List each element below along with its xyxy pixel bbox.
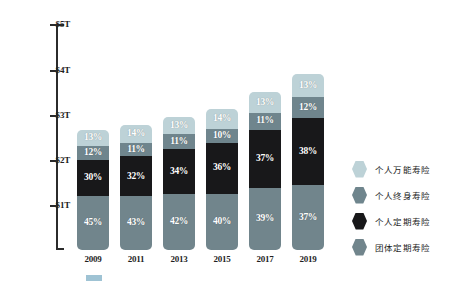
bar-2013[interactable]: 13%11%34%42%: [163, 117, 195, 250]
bar-2017[interactable]: 13%11%37%39%: [249, 92, 281, 250]
x-axis-label-2009: 2009: [77, 254, 109, 264]
y-tick-label-2: $2T: [30, 155, 70, 165]
y-tick-label-1: $1T: [30, 200, 70, 210]
bar-segment-2013-3: 42%: [163, 194, 195, 250]
bar-2011[interactable]: 14%11%32%43%: [120, 125, 152, 250]
segment-value-label: 45%: [84, 218, 102, 228]
bar-segment-2015-0: 14%: [206, 109, 238, 129]
legend-label-1: 个人终身寿险: [375, 189, 430, 201]
bar-segment-2019-0: 13%: [292, 74, 324, 97]
legend-hexagon-icon-2: [352, 213, 367, 230]
y-tick-label-3: $3T: [30, 110, 70, 120]
plot-area: 13%12%30%45%200914%11%32%43%201113%11%34…: [72, 20, 334, 250]
bar-2019[interactable]: 13%12%38%37%: [292, 74, 324, 250]
segment-value-label: 37%: [256, 154, 274, 164]
bar-group-2019[interactable]: 13%12%38%37%: [292, 74, 324, 250]
legend-item-0[interactable]: 个人万能寿险: [352, 158, 456, 180]
x-axis-label-2013: 2013: [163, 254, 195, 264]
bar-segment-2019-1: 12%: [292, 97, 324, 118]
legend-item-2[interactable]: 个人定期寿险: [352, 210, 456, 232]
bar-segment-2017-1: 11%: [249, 113, 281, 130]
segment-value-label: 38%: [299, 147, 317, 157]
bar-group-2009[interactable]: 13%12%30%45%: [77, 130, 109, 250]
caption-marker-icon: [86, 275, 102, 281]
segment-value-label: 42%: [170, 217, 188, 227]
bar-segment-2013-0: 13%: [163, 117, 195, 134]
bar-segment-2013-2: 34%: [163, 149, 195, 194]
bar-segment-2011-3: 43%: [120, 196, 152, 250]
segment-value-label: 36%: [213, 163, 231, 173]
segment-value-label: 13%: [84, 133, 102, 143]
bar-segment-2015-2: 36%: [206, 143, 238, 194]
x-axis-label-2011: 2011: [120, 254, 152, 264]
segment-value-label: 32%: [127, 172, 145, 182]
y-axis-bottom-cap: [56, 248, 64, 250]
bar-segment-2017-3: 39%: [249, 188, 281, 250]
segment-value-label: 14%: [127, 129, 145, 139]
legend-hexagon-icon-3: [352, 239, 367, 256]
bar-segment-2009-2: 30%: [77, 160, 109, 196]
bar-segment-2009-3: 45%: [77, 196, 109, 250]
legend-item-1[interactable]: 个人终身寿险: [352, 184, 456, 206]
segment-value-label: 39%: [256, 214, 274, 224]
legend-label-0: 个人万能寿险: [375, 163, 430, 175]
cropped-caption: [86, 274, 276, 281]
segment-value-label: 34%: [170, 167, 188, 177]
y-tick-label-4: $4T: [30, 65, 70, 75]
segment-value-label: 11%: [127, 145, 145, 155]
legend-hexagon-icon-1: [352, 187, 367, 204]
x-axis-label-2017: 2017: [249, 254, 281, 264]
bar-segment-2017-2: 37%: [249, 130, 281, 188]
bar-segment-2019-3: 37%: [292, 185, 324, 250]
segment-value-label: 12%: [84, 148, 102, 158]
segment-value-label: 14%: [213, 114, 231, 124]
segment-value-label: 11%: [256, 116, 274, 126]
bar-segment-2015-1: 10%: [206, 129, 238, 143]
bar-segment-2013-1: 11%: [163, 134, 195, 149]
bar-2015[interactable]: 14%10%36%40%: [206, 109, 238, 250]
legend-item-3[interactable]: 团体定期寿险: [352, 236, 456, 258]
bar-group-2017[interactable]: 13%11%37%39%: [249, 92, 281, 250]
legend-label-2: 个人定期寿险: [375, 215, 430, 227]
bar-segment-2011-2: 32%: [120, 156, 152, 196]
segment-value-label: 37%: [299, 213, 317, 223]
x-axis-label-2015: 2015: [206, 254, 238, 264]
chart-legend: 个人万能寿险 个人终身寿险 个人定期寿险 团体定期寿险: [352, 158, 456, 262]
segment-value-label: 13%: [170, 121, 188, 131]
bar-segment-2019-2: 38%: [292, 118, 324, 185]
bar-segment-2015-3: 40%: [206, 194, 238, 250]
bar-segment-2009-0: 13%: [77, 130, 109, 146]
y-tick-label-5: $5T: [30, 19, 70, 29]
segment-value-label: 40%: [213, 217, 231, 227]
segment-value-label: 13%: [299, 81, 317, 91]
bar-group-2015[interactable]: 14%10%36%40%: [206, 109, 238, 250]
segment-value-label: 43%: [127, 218, 145, 228]
y-axis-line: [56, 24, 58, 250]
segment-value-label: 12%: [299, 103, 317, 113]
segment-value-label: 11%: [170, 137, 188, 147]
bar-2009[interactable]: 13%12%30%45%: [77, 130, 109, 250]
bar-segment-2017-0: 13%: [249, 92, 281, 113]
bar-group-2013[interactable]: 13%11%34%42%: [163, 117, 195, 250]
segment-value-label: 10%: [213, 131, 231, 141]
legend-hexagon-icon-0: [352, 161, 367, 178]
bar-segment-2009-1: 12%: [77, 146, 109, 160]
bar-segment-2011-1: 11%: [120, 143, 152, 157]
stacked-bar-chart: $5T $4T $3T $2T $1T 13%12%30%45%200914%1…: [0, 0, 456, 281]
bar-group-2011[interactable]: 14%11%32%43%: [120, 125, 152, 250]
segment-value-label: 30%: [84, 173, 102, 183]
segment-value-label: 13%: [256, 98, 274, 108]
x-axis-label-2019: 2019: [292, 254, 324, 264]
legend-label-3: 团体定期寿险: [375, 241, 430, 253]
bar-segment-2011-0: 14%: [120, 125, 152, 143]
